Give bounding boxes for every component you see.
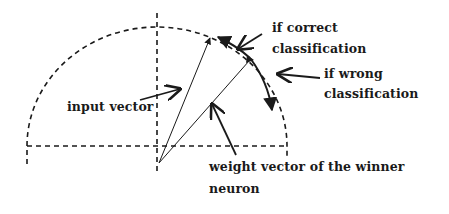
weight-vector-label-1: weight vector of the winner (209, 158, 404, 176)
if-wrong-label-1: if wrong (324, 65, 383, 83)
weight-pointer (212, 104, 236, 155)
weight-vector (159, 61, 249, 163)
input-vector-label: input vector (67, 98, 154, 116)
if-wrong-label-2: classification (324, 85, 418, 103)
input-vector (159, 38, 210, 163)
update-arc (218, 37, 250, 58)
wrong-pointer (278, 74, 320, 78)
weight-vector-label-2: neuron (209, 180, 260, 198)
correct-pointer (238, 34, 262, 49)
if-correct-label-2: classification (272, 40, 366, 58)
if-correct-label-1: if correct (272, 19, 338, 37)
